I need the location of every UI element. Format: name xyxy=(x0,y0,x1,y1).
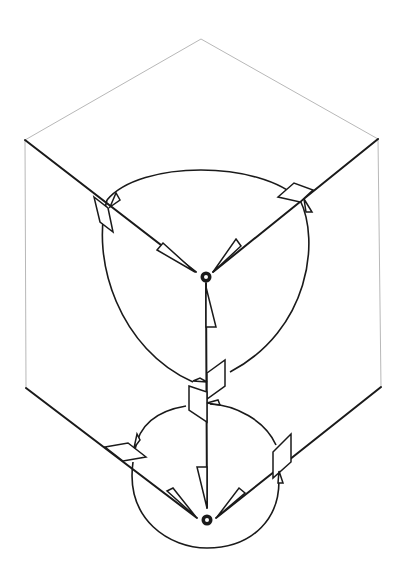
arrowhead-upper-right-icon xyxy=(213,239,241,272)
upper-flags xyxy=(94,183,313,232)
tick-upper-right-icon xyxy=(304,199,312,212)
top-left-edge xyxy=(25,39,201,140)
tick-middle-left-icon xyxy=(193,378,207,382)
lower-right-vector xyxy=(216,387,381,518)
vector-edges xyxy=(25,139,381,518)
upper-right-vector xyxy=(213,139,378,272)
flag-upper-left-icon xyxy=(94,197,113,232)
cube-diagram xyxy=(0,0,404,580)
flag-lower-left-icon xyxy=(105,443,146,461)
lower-arrowheads xyxy=(167,467,245,517)
arrowhead-lower-down-icon xyxy=(197,467,207,508)
arrowhead-lower-right-icon xyxy=(217,488,245,517)
flag-middle-lower-icon xyxy=(189,386,207,422)
lower-flags xyxy=(105,434,291,483)
flag-middle-upper-icon xyxy=(207,360,225,399)
arrowhead-upper-left-icon xyxy=(157,243,195,272)
arrowhead-lower-left-icon xyxy=(167,488,196,517)
cube-outline-thin xyxy=(25,39,381,388)
upper-center-node xyxy=(201,272,212,283)
lower-center-node xyxy=(202,515,213,526)
top-right-edge xyxy=(201,39,378,139)
right-vertical-edge xyxy=(378,139,381,387)
arrowhead-down-icon xyxy=(206,287,216,327)
tick-middle-right-icon xyxy=(207,400,220,405)
flag-upper-right-icon xyxy=(278,183,313,202)
tick-lower-right-icon xyxy=(278,471,283,483)
upper-arrowheads xyxy=(157,239,241,327)
flag-lower-right-icon xyxy=(273,434,291,478)
left-vertical-edge xyxy=(25,140,26,388)
